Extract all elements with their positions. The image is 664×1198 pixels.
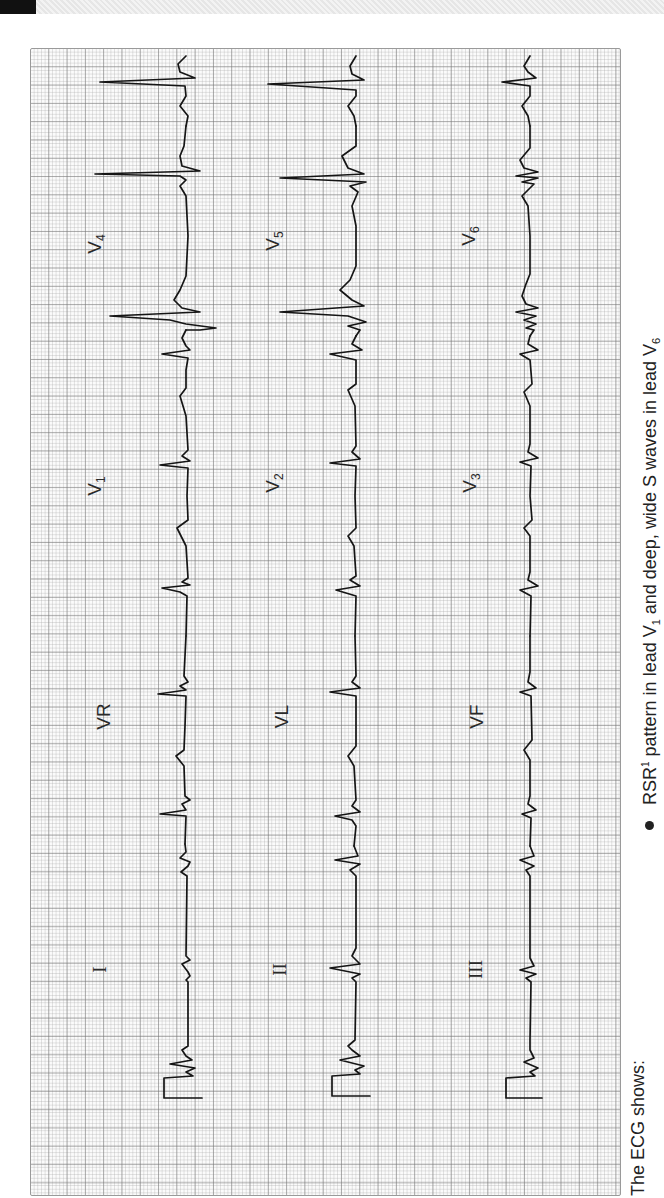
lead-label-V5: V5 (263, 231, 285, 250)
lead-label-V3: V3 (460, 473, 482, 492)
lead-label-VR: VR (94, 703, 113, 729)
bullet-icon (645, 821, 654, 830)
lead-label-III: III (466, 960, 485, 979)
caption-intro: The ECG shows: (628, 1060, 649, 1196)
lead-label-VF: VF (467, 704, 486, 728)
lead-label-I: I (90, 966, 109, 972)
lead-label-V1: V1 (85, 476, 107, 495)
caption-bullet-1: RSR1 pattern in lead V1 and deep, wide S… (640, 338, 662, 830)
lead-label-V6: V6 (459, 226, 481, 245)
ecg-paper-grid (30, 48, 621, 1196)
lead-label-V2: V2 (263, 473, 285, 492)
lead-label-V4: V4 (85, 234, 107, 253)
lead-label-II: II (270, 963, 289, 976)
page-header-tab (0, 0, 36, 14)
page-header-banner (0, 0, 664, 14)
lead-label-VL: VL (272, 705, 291, 728)
